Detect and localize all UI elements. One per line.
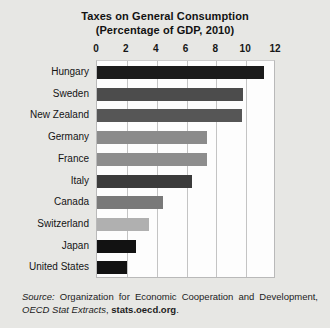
x-tick-label: 0: [93, 43, 99, 54]
bar-italy: [97, 175, 192, 188]
gridline: [246, 61, 247, 277]
x-tick-label: 2: [123, 43, 129, 54]
category-label: New Zealand: [30, 108, 89, 121]
chart-title: Taxes on General Consumption: [0, 9, 330, 23]
x-tick-label: 10: [240, 43, 251, 54]
category-label: Canada: [54, 195, 89, 208]
plot-area: [96, 60, 275, 278]
category-label: Sweden: [53, 87, 89, 100]
source-note: Source: Organization for Economic Cooper…: [22, 290, 318, 316]
source-url: stats.oecd.org: [111, 304, 176, 315]
bar-canada: [97, 196, 163, 209]
category-label: United States: [29, 260, 89, 273]
source-label: Source:: [22, 291, 55, 302]
y-axis-category-labels: HungarySwedenNew ZealandGermanyFranceIta…: [0, 60, 93, 278]
bar-new-zealand: [97, 109, 242, 122]
category-label: Japan: [62, 239, 89, 252]
source-organization: Organization for Economic Cooperation an…: [55, 291, 318, 302]
bar-japan: [97, 240, 136, 253]
chart-title-block: Taxes on General Consumption (Percentage…: [0, 9, 330, 37]
category-label: Hungary: [51, 65, 89, 78]
bar-france: [97, 153, 207, 166]
category-label: Germany: [48, 130, 89, 143]
x-axis-tick-labels: 024681012: [0, 43, 330, 57]
bar-united-states: [97, 261, 127, 274]
chart-subtitle: (Percentage of GDP, 2010): [0, 23, 330, 37]
bar-switzerland: [97, 218, 149, 231]
chart-figure: Taxes on General Consumption (Percentage…: [0, 0, 330, 328]
category-label: France: [58, 152, 89, 165]
category-label: Switzerland: [37, 217, 89, 230]
x-tick-label: 8: [213, 43, 219, 54]
source-period: .: [176, 304, 179, 315]
x-tick-label: 12: [269, 43, 280, 54]
bar-hungary: [97, 66, 264, 79]
bar-sweden: [97, 88, 243, 101]
source-publication: OECD Stat Extracts: [22, 304, 106, 315]
category-label: Italy: [71, 174, 89, 187]
x-tick-label: 6: [183, 43, 189, 54]
x-tick-label: 4: [153, 43, 159, 54]
bar-germany: [97, 131, 207, 144]
